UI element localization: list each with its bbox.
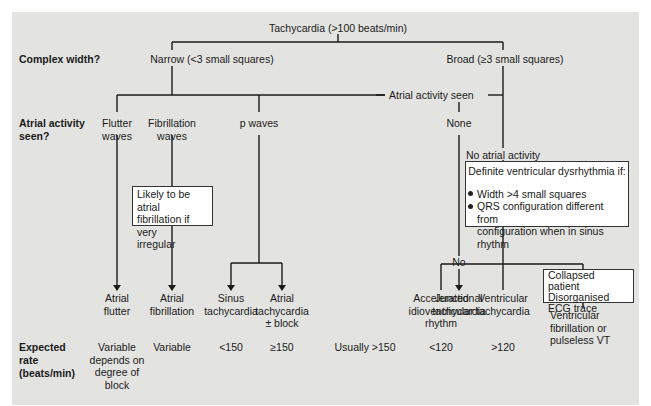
note-box-af: Likely to be atrial fibrillation if very… bbox=[132, 186, 213, 226]
diagnosis-atrial-tachycardia: Atrialtachycardia± block bbox=[255, 292, 309, 330]
bullet-icon bbox=[468, 204, 473, 209]
diagnosis-ventricular-tachycardia: Ventriculartachycardia bbox=[476, 292, 530, 317]
node-p-waves: p waves bbox=[240, 117, 279, 130]
dvd-bullet-1: Width >4 small squares bbox=[468, 188, 626, 201]
label-atrial-activity-seen: Atrial activity seen bbox=[385, 89, 478, 102]
rate-junctional-tachycardia: Usually >150 bbox=[335, 341, 396, 354]
note-box-collapsed-patient: Collapsed patient Disorganised ECG trace bbox=[543, 269, 634, 303]
diagnosis-atrial-flutter: Atrialflutter bbox=[104, 292, 130, 317]
rate-atrial-flutter: Variabledepends ondegree ofblock bbox=[90, 341, 145, 391]
rate-atrial-tachycardia: ≥150 bbox=[270, 341, 293, 354]
node-flutter-waves-2: waves bbox=[102, 130, 132, 143]
rate-atrial-fibrillation: Variable bbox=[153, 341, 191, 354]
rate-aivr: <120 bbox=[429, 341, 453, 354]
note-box-definite-ventricular-dysrhythmia: Definite ventricular dysrhythmia if: Wid… bbox=[465, 161, 629, 227]
node-flutter-waves-1: Flutter bbox=[102, 117, 132, 130]
note-af-line3: irregular bbox=[137, 238, 208, 251]
label-no-atrial-activity: No atrial activity bbox=[466, 149, 540, 162]
diagnosis-aivr: Acceleratedidioventricularrhythm bbox=[409, 292, 474, 330]
row-label-atrial-activity-2: seen? bbox=[19, 130, 49, 143]
node-narrow: Narrow (<3 small squares) bbox=[150, 53, 273, 66]
dvd-bullet-2: QRS configuration different from configu… bbox=[468, 200, 626, 250]
note-af-line2: fibrillation if very bbox=[137, 213, 208, 238]
diagnosis-vf-pulseless-vt: Ventricularfibrillation orpulseless VT bbox=[550, 309, 610, 347]
row-label-atrial-activity-1: Atrial activity bbox=[19, 117, 85, 130]
collapsed-line1: Collapsed patient bbox=[548, 270, 629, 292]
node-broad: Broad (≥3 small squares) bbox=[446, 53, 563, 66]
rate-ventricular-tachycardia: >120 bbox=[491, 341, 515, 354]
row-label-expected-rate-1: Expected bbox=[19, 341, 66, 354]
dvd-title: Definite ventricular dysrhythmia if: bbox=[468, 165, 626, 178]
label-no: No bbox=[452, 256, 465, 269]
note-af-line1: Likely to be atrial bbox=[137, 188, 208, 213]
node-none: None bbox=[446, 117, 471, 130]
root-node-tachycardia: Tachycardia (>100 beats/min) bbox=[269, 22, 407, 35]
node-fibrillation-waves-2: waves bbox=[157, 130, 187, 143]
diagnosis-sinus-tachycardia: Sinustachycardia bbox=[204, 292, 258, 317]
bullet-icon bbox=[468, 191, 473, 196]
diagnosis-atrial-fibrillation: Atrialfibrillation bbox=[150, 292, 194, 317]
row-label-complex-width: Complex width? bbox=[19, 53, 100, 66]
rate-sinus-tachycardia: <150 bbox=[219, 341, 243, 354]
row-label-expected-rate-2: rate bbox=[19, 354, 38, 367]
node-fibrillation-waves-1: Fibrillation bbox=[148, 117, 196, 130]
row-label-expected-rate-3: (beats/min) bbox=[19, 367, 75, 380]
